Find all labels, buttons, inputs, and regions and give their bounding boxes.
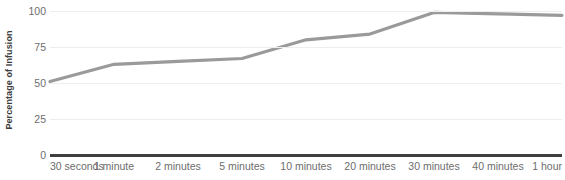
x-axis-tick-label: 1 minute <box>94 160 134 174</box>
y-axis-tick-label: 0 <box>16 150 46 161</box>
y-axis-tick-labels: 0255075100 <box>14 0 46 180</box>
x-axis-tick-labels: 30 seconds1 minute2 minutes5 minutes10 m… <box>50 160 562 178</box>
x-axis-tick-label: 40 minutes <box>472 160 523 174</box>
gridline <box>50 47 562 48</box>
y-axis-title-label: Percentage of Infusion <box>4 30 14 129</box>
x-axis-tick-label: 10 minutes <box>280 160 331 174</box>
x-axis-tick-label: 30 minutes <box>408 160 459 174</box>
y-axis-tick-label: 50 <box>16 78 46 89</box>
x-axis-tick-label: 2 minutes <box>155 160 201 174</box>
y-axis-tick-label: 100 <box>16 6 46 17</box>
gridline <box>50 11 562 12</box>
gridline <box>50 83 562 84</box>
gridline <box>50 119 562 120</box>
plot-area <box>50 11 562 155</box>
x-axis-tick-label: 20 minutes <box>344 160 395 174</box>
x-axis-tick-label: 5 minutes <box>219 160 265 174</box>
x-axis-line <box>50 154 562 157</box>
y-axis-tick-label: 75 <box>16 42 46 53</box>
x-axis-tick-label: 1 hour <box>532 160 562 174</box>
y-axis-tick-label: 25 <box>16 114 46 125</box>
chart-screenshot: Percentage of Infusion 0255075100 30 sec… <box>0 0 565 180</box>
